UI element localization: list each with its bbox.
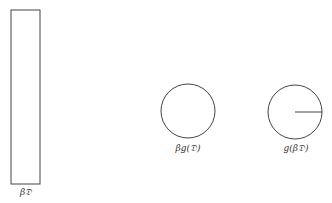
rectangle-shape [11, 10, 40, 184]
circle-right-label: g(β𝔇) [284, 143, 309, 154]
circle-shape-middle [161, 84, 215, 138]
diagram-canvas [0, 0, 332, 203]
rectangle-label: β𝔇 [20, 187, 32, 198]
circle-middle-label: βg(𝔇) [176, 143, 201, 154]
